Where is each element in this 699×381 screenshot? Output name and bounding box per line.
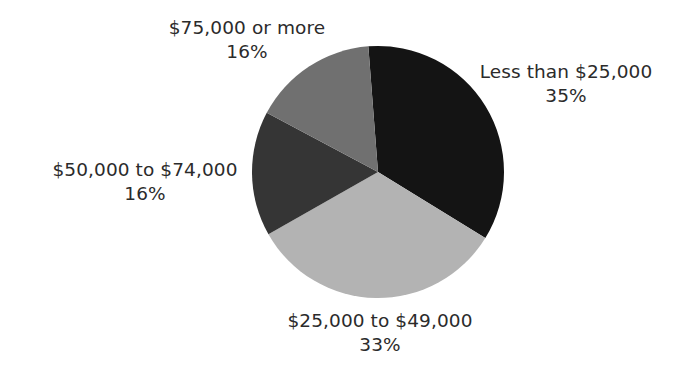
slice-percent: 35% [480,84,653,108]
slice-percent: 16% [169,40,326,64]
slice-category: $25,000 to $49,000 [287,309,472,333]
slice-category: Less than $25,000 [480,60,653,84]
slice-percent: 16% [52,182,237,206]
slice-label-25000-to-49000: $25,000 to $49,000 33% [287,309,472,357]
slice-percent: 33% [287,333,472,357]
slice-category: $75,000 or more [169,16,326,40]
slice-category: $50,000 to $74,000 [52,158,237,182]
slice-label-50000-to-74000: $50,000 to $74,000 16% [52,158,237,206]
slice-label-less-than-25000: Less than $25,000 35% [480,60,653,108]
slice-label-75000-or-more: $75,000 or more 16% [169,16,326,64]
pie-chart: Less than $25,000 35% $25,000 to $49,000… [0,0,699,381]
pie-slices [252,46,504,298]
